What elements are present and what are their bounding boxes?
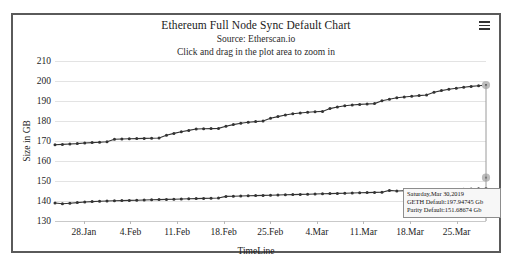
data-point[interactable]: [358, 103, 361, 106]
data-point[interactable]: [143, 137, 146, 140]
data-point[interactable]: [276, 115, 279, 118]
data-point[interactable]: [440, 89, 443, 92]
data-point[interactable]: [150, 137, 153, 140]
data-point[interactable]: [120, 138, 123, 141]
data-point[interactable]: [336, 106, 339, 109]
data-point[interactable]: [150, 198, 153, 201]
data-point[interactable]: [366, 191, 369, 194]
data-point[interactable]: [158, 198, 161, 201]
data-point[interactable]: [128, 137, 131, 140]
data-point[interactable]: [61, 143, 64, 146]
data-point[interactable]: [106, 200, 109, 203]
data-point[interactable]: [262, 120, 265, 123]
data-point[interactable]: [98, 141, 101, 144]
data-point[interactable]: [158, 137, 161, 140]
data-point[interactable]: [172, 198, 175, 201]
data-point[interactable]: [328, 192, 331, 195]
data-point[interactable]: [373, 191, 376, 194]
data-point[interactable]: [210, 127, 213, 130]
data-point[interactable]: [447, 88, 450, 91]
data-point[interactable]: [195, 197, 198, 200]
data-point[interactable]: [210, 197, 213, 200]
data-point[interactable]: [395, 96, 398, 99]
data-point[interactable]: [314, 193, 317, 196]
data-point[interactable]: [351, 104, 354, 107]
data-point[interactable]: [247, 121, 250, 124]
data-point[interactable]: [306, 111, 309, 114]
data-point[interactable]: [299, 112, 302, 115]
data-point[interactable]: [239, 195, 242, 198]
data-point[interactable]: [321, 192, 324, 195]
data-point[interactable]: [224, 195, 227, 198]
data-point[interactable]: [269, 117, 272, 120]
data-point[interactable]: [76, 201, 79, 204]
data-point[interactable]: [314, 110, 317, 113]
data-point[interactable]: [425, 94, 428, 97]
data-point[interactable]: [120, 199, 123, 202]
data-point[interactable]: [380, 99, 383, 102]
data-point[interactable]: [418, 94, 421, 97]
data-point[interactable]: [83, 201, 86, 204]
data-point[interactable]: [477, 84, 480, 87]
data-point[interactable]: [462, 86, 465, 89]
data-point[interactable]: [247, 194, 250, 197]
data-point[interactable]: [172, 132, 175, 135]
data-point[interactable]: [254, 120, 257, 123]
data-point[interactable]: [388, 189, 391, 192]
data-point[interactable]: [299, 193, 302, 196]
data-point[interactable]: [217, 127, 220, 130]
data-point[interactable]: [135, 137, 138, 140]
data-point[interactable]: [113, 138, 116, 141]
data-point[interactable]: [202, 127, 205, 130]
data-point[interactable]: [380, 191, 383, 194]
data-point[interactable]: [128, 199, 131, 202]
data-point[interactable]: [54, 202, 57, 205]
data-point[interactable]: [113, 199, 116, 202]
data-point[interactable]: [276, 194, 279, 197]
data-point[interactable]: [187, 197, 190, 200]
data-point[interactable]: [328, 107, 331, 110]
data-point[interactable]: [321, 110, 324, 113]
data-point[interactable]: [98, 200, 101, 203]
data-point[interactable]: [239, 122, 242, 125]
data-point[interactable]: [61, 202, 64, 205]
data-point[interactable]: [187, 129, 190, 132]
data-point[interactable]: [343, 192, 346, 195]
data-point[interactable]: [343, 104, 346, 107]
data-point[interactable]: [291, 112, 294, 115]
data-point[interactable]: [284, 193, 287, 196]
data-point[interactable]: [165, 198, 168, 201]
hamburger-menu-icon[interactable]: [478, 20, 491, 31]
data-point[interactable]: [336, 192, 339, 195]
data-point[interactable]: [91, 141, 94, 144]
data-point[interactable]: [217, 197, 220, 200]
data-point[interactable]: [470, 85, 473, 88]
data-point[interactable]: [195, 128, 198, 131]
data-point[interactable]: [83, 142, 86, 145]
data-point[interactable]: [54, 143, 57, 146]
data-point[interactable]: [135, 199, 138, 202]
data-point[interactable]: [366, 103, 369, 106]
data-point[interactable]: [388, 98, 391, 101]
data-point[interactable]: [232, 195, 235, 198]
data-point[interactable]: [68, 202, 71, 205]
data-point[interactable]: [165, 134, 168, 137]
data-point[interactable]: [395, 190, 398, 193]
data-point[interactable]: [180, 130, 183, 133]
data-point[interactable]: [143, 199, 146, 202]
data-point[interactable]: [351, 192, 354, 195]
data-point[interactable]: [269, 194, 272, 197]
data-point[interactable]: [106, 140, 109, 143]
data-point[interactable]: [373, 102, 376, 105]
data-point[interactable]: [224, 125, 227, 128]
data-point[interactable]: [232, 123, 235, 126]
data-point[interactable]: [403, 96, 406, 99]
data-point[interactable]: [284, 114, 287, 117]
data-point[interactable]: [76, 142, 79, 145]
data-point[interactable]: [291, 193, 294, 196]
data-point[interactable]: [68, 143, 71, 146]
data-point[interactable]: [306, 193, 309, 196]
data-point[interactable]: [358, 191, 361, 194]
data-point[interactable]: [254, 194, 257, 197]
data-point[interactable]: [262, 194, 265, 197]
